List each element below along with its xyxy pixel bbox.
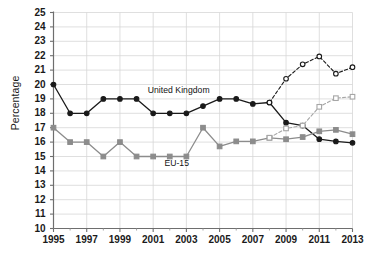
chart-container: Percentage 10111213141516171819202122232…: [0, 0, 373, 260]
series-label-1: United Kingdom: [148, 86, 210, 95]
plot-area: [0, 0, 373, 260]
series-2: [267, 54, 355, 105]
axes: [50, 12, 353, 233]
chart-svg: [0, 0, 373, 260]
series-4: [267, 94, 355, 140]
series-label-2: EU-15: [164, 159, 189, 168]
